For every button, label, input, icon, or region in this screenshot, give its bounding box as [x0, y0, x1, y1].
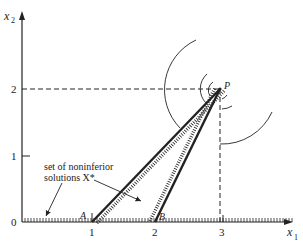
y-axis: [19, 11, 25, 222]
annotation-line2: solutions X*: [44, 172, 95, 183]
x-axis-subscript: 1: [294, 233, 298, 242]
annotation-line1: set of noninferior: [44, 161, 114, 172]
noninferior-solutions-diagram: x 2 x 1 2 1 0 1 2 3 P A B set of noninfe…: [0, 0, 303, 246]
point-B-label: B: [159, 211, 165, 222]
y-tick-label-2: 2: [11, 83, 17, 95]
y-axis-subscript: 2: [11, 16, 15, 25]
x-axis-label: x: [286, 225, 293, 239]
annotation-arrow-axis: [46, 183, 62, 216]
x-tick-label-3: 3: [219, 226, 225, 238]
line-B-P: [150, 88, 220, 222]
point-P: [218, 87, 221, 90]
y-axis-label: x: [3, 9, 10, 23]
x-tick-label-1: 1: [89, 226, 95, 238]
point-A-label: A: [79, 210, 87, 221]
y-tick-label-1: 1: [11, 150, 17, 162]
y-tick-label-0: 0: [11, 216, 17, 228]
annotation-arrow-line: [94, 180, 141, 201]
x-tick-label-2: 2: [152, 226, 158, 238]
hatched-axis-segment: [23, 218, 293, 222]
point-P-label: P: [223, 80, 230, 91]
